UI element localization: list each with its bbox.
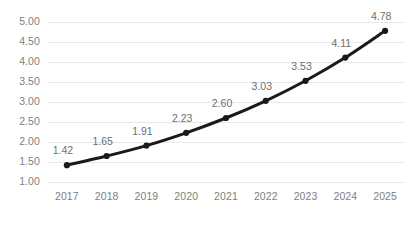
x-axis-tick-label: 2022 [246, 191, 286, 202]
data-point-label: 3.03 [245, 81, 279, 92]
data-point-label: 4.78 [364, 11, 398, 22]
data-point-marker [382, 28, 388, 34]
data-point-marker [143, 143, 149, 149]
data-point-label: 2.60 [205, 98, 239, 109]
data-point-marker [183, 130, 189, 136]
data-point-marker [64, 162, 70, 168]
line-chart: 1.001.502.002.503.003.504.004.505.00 201… [0, 0, 414, 225]
x-axis-tick-label: 2018 [87, 191, 127, 202]
data-point-label: 4.11 [324, 38, 358, 49]
data-point-marker [302, 78, 308, 84]
x-axis-tick-label: 2020 [166, 191, 206, 202]
x-axis-tick-label: 2024 [325, 191, 365, 202]
x-axis-tick-label: 2025 [365, 191, 405, 202]
data-point-label: 2.23 [165, 113, 199, 124]
y-axis-tick-label: 1.50 [10, 156, 40, 167]
y-axis-tick-label: 4.00 [10, 56, 40, 67]
data-point-label: 1.65 [86, 136, 120, 147]
y-axis-tick-label: 3.50 [10, 76, 40, 87]
x-axis-tick-label: 2019 [126, 191, 166, 202]
y-axis-tick-label: 4.50 [10, 36, 40, 47]
data-point-label: 1.91 [125, 126, 159, 137]
y-axis-tick-label: 3.00 [10, 96, 40, 107]
y-axis-tick-label: 5.00 [10, 16, 40, 27]
y-axis-tick-label: 2.50 [10, 116, 40, 127]
data-point-marker [342, 55, 348, 61]
y-axis-tick-label: 2.00 [10, 136, 40, 147]
data-point-marker [104, 153, 110, 159]
y-axis-tick-label: 1.00 [10, 176, 40, 187]
x-axis-tick-label: 2023 [286, 191, 326, 202]
x-axis-tick-label: 2017 [47, 191, 87, 202]
x-axis-tick-label: 2021 [206, 191, 246, 202]
data-point-marker [223, 115, 229, 121]
data-point-label: 3.53 [285, 61, 319, 72]
data-point-label: 1.42 [46, 145, 80, 156]
data-point-marker [263, 98, 269, 104]
